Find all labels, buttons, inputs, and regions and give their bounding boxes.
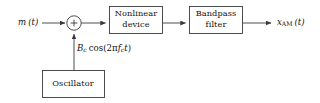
- signal-label-carrier: Bccos(2πfct): [77, 43, 131, 53]
- signal-output-sub: AM: [282, 20, 293, 27]
- block-label-bandpass-filter: Bandpass filter: [190, 8, 242, 29]
- block-label-oscillator: Oscillator: [42, 78, 104, 89]
- carrier-function: cos: [89, 43, 103, 53]
- carrier-arg-open: (2: [103, 43, 112, 53]
- block-label-nonlinear-device: Nonlinear device: [110, 8, 162, 29]
- block-label-nonlinear-line2: device: [122, 19, 149, 29]
- block-label-oscillator-line1: Oscillator: [52, 78, 93, 88]
- signal-label-message: m(t): [18, 17, 38, 27]
- carrier-amplitude-sub: c: [83, 46, 86, 53]
- signal-output-arg: (t): [295, 17, 305, 27]
- signal-message-base: m: [18, 17, 26, 27]
- block-label-nonlinear-line1: Nonlinear: [115, 8, 157, 18]
- carrier-arg-close: ): [128, 43, 131, 53]
- signal-message-arg: (t): [28, 17, 38, 27]
- block-label-bandpass-line1: Bandpass: [196, 8, 237, 18]
- block-label-bandpass-line2: filter: [206, 19, 227, 29]
- am-modulator-diagram: Nonlinear device Bandpass filter Oscilla…: [0, 0, 320, 103]
- signal-label-output: xAM(t): [277, 17, 305, 27]
